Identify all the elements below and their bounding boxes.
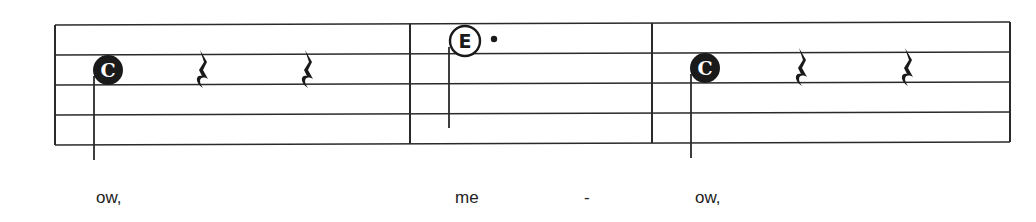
lyric-ow-2: ow,	[695, 188, 721, 208]
quarter-rest-icon	[902, 48, 913, 86]
staff-line-1	[55, 22, 1010, 25]
quarter-rest-icon	[796, 48, 807, 86]
note-letter: C	[100, 59, 115, 81]
note-letter: E	[459, 30, 472, 52]
staff-lines	[55, 22, 1010, 145]
music-staff: C E C	[0, 0, 1036, 222]
staff-line-5	[55, 142, 1010, 145]
measure-3: C	[690, 48, 913, 158]
staff-line-2	[55, 52, 1010, 55]
lyric-ow-1: ow,	[96, 188, 122, 208]
quarter-rest-icon	[302, 50, 313, 88]
measure-2: E	[449, 26, 497, 128]
quarter-rest-icon	[197, 50, 208, 88]
note-e-hollow-dotted: E	[449, 26, 497, 128]
staff-line-4	[55, 112, 1010, 115]
note-letter: C	[697, 57, 712, 79]
lyric-hyphen: -	[584, 188, 590, 208]
duration-dot	[491, 36, 497, 42]
lyric-me: me	[455, 188, 479, 208]
